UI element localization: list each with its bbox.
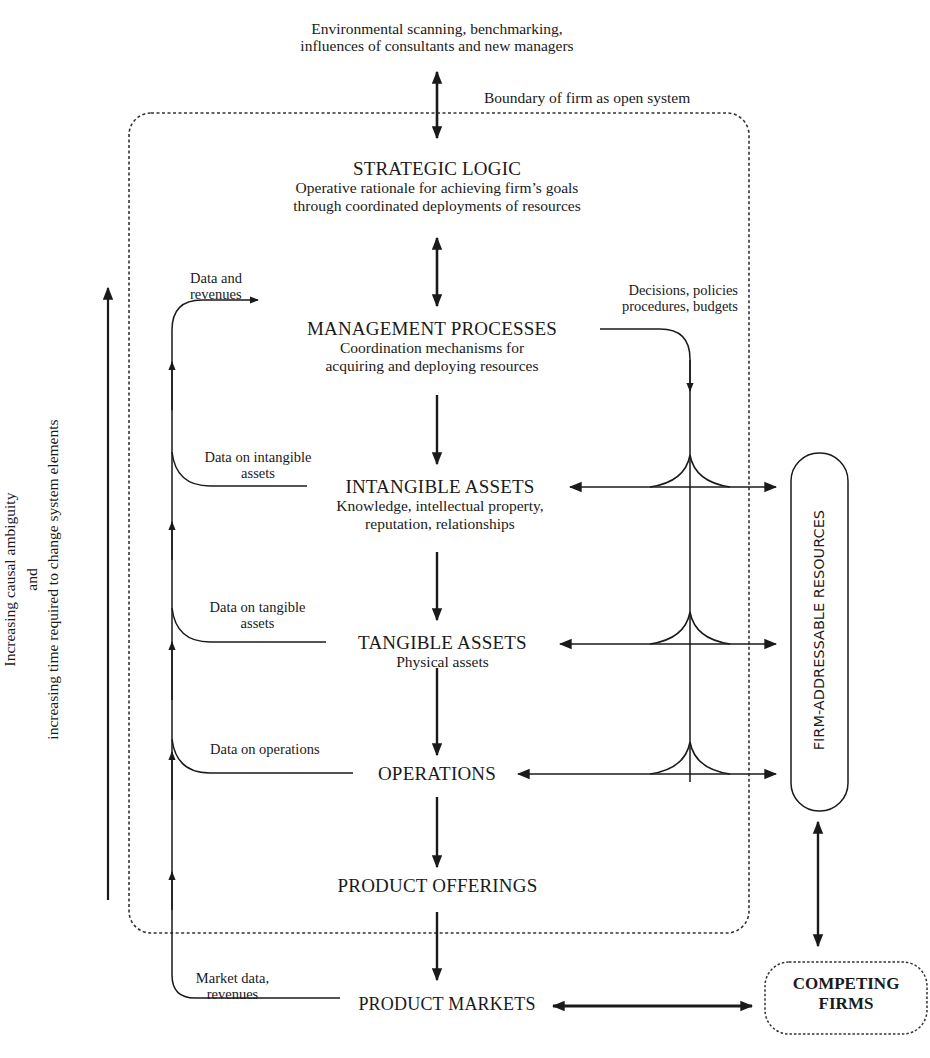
decisions-line: [600, 329, 690, 782]
data-on-tangible-line2: assets: [200, 615, 315, 631]
side-axis-label: Increasing causal ambiguity and increasi…: [0, 400, 65, 760]
node-intangible-assets[interactable]: INTANGIBLE ASSETS Knowledge, intellectua…: [312, 476, 568, 532]
external-influences-line1: Environmental scanning, benchmarking,: [252, 20, 622, 37]
data-and-revenues-line2: revenues: [190, 286, 242, 302]
boundary-label: Boundary of firm as open system: [484, 89, 690, 106]
node-management-processes[interactable]: MANAGEMENT PROCESSES Coordination mechan…: [262, 318, 602, 374]
tangible-assets-desc-1: Physical assets: [330, 653, 555, 670]
side-axis-line3: increasing time required to change syste…: [43, 400, 65, 760]
intangible-assets-desc-2: reputation, relationships: [312, 515, 568, 532]
side-axis-line1: Increasing causal ambiguity: [0, 400, 21, 760]
side-axis-line2: and: [21, 400, 43, 760]
decisions-line2: procedures, budgets: [598, 298, 738, 314]
data-and-revenues-line1: Data and: [190, 270, 242, 286]
tangible-assets-title: TANGIBLE ASSETS: [330, 632, 555, 653]
strategic-logic-title: STRATEGIC LOGIC: [272, 158, 602, 179]
node-operations[interactable]: OPERATIONS: [358, 763, 516, 784]
data-on-intangible-line1: Data on intangible: [198, 449, 318, 465]
label-data-on-operations: Data on operations: [210, 741, 320, 757]
decisions-line1: Decisions, policies: [598, 282, 738, 298]
management-processes-title: MANAGEMENT PROCESSES: [262, 318, 602, 339]
firm-addressable-resources-label: FIRM-ADDRESSABLE RESOURCES: [809, 480, 829, 780]
competing-firms-line2: FIRMS: [765, 994, 927, 1014]
data-on-intangible-line2: assets: [198, 465, 318, 481]
feedback-trunk: [172, 300, 340, 998]
label-data-on-tangible: Data on tangible assets: [200, 599, 315, 631]
node-product-offerings[interactable]: PRODUCT OFFERINGS: [325, 875, 550, 896]
label-data-and-revenues: Data and revenues: [190, 270, 242, 302]
market-data-line2: revenues: [185, 986, 280, 1002]
external-influences-label: Environmental scanning, benchmarking, in…: [252, 20, 622, 55]
label-decisions: Decisions, policies procedures, budgets: [598, 282, 738, 314]
strategic-logic-desc-1: Operative rationale for achieving firm’s…: [272, 179, 602, 196]
label-data-on-intangible: Data on intangible assets: [198, 449, 318, 481]
data-on-tangible-line1: Data on tangible: [200, 599, 315, 615]
competing-firms-label: COMPETING FIRMS: [765, 974, 927, 1015]
competing-firms-line1: COMPETING: [765, 974, 927, 994]
node-strategic-logic[interactable]: STRATEGIC LOGIC Operative rationale for …: [272, 158, 602, 214]
external-influences-line2: influences of consultants and new manage…: [252, 37, 622, 54]
management-processes-desc-2: acquiring and deploying resources: [262, 357, 602, 374]
node-product-markets[interactable]: PRODUCT MARKETS: [343, 994, 551, 1014]
node-tangible-assets[interactable]: TANGIBLE ASSETS Physical assets: [330, 632, 555, 671]
strategic-logic-desc-2: through coordinated deployments of resou…: [272, 197, 602, 214]
intangible-assets-title: INTANGIBLE ASSETS: [312, 476, 568, 497]
label-market-data: Market data, revenues: [185, 970, 280, 1002]
intangible-assets-desc-1: Knowledge, intellectual property,: [312, 497, 568, 514]
market-data-line1: Market data,: [185, 970, 280, 986]
management-processes-desc-1: Coordination mechanisms for: [262, 339, 602, 356]
